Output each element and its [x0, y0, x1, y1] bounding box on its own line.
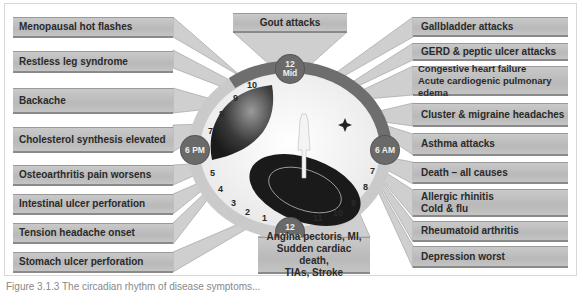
box-osteoarthritis: Osteoarthritis pain worsens [13, 165, 173, 186]
box-tension-headache: Tension headache onset [13, 223, 173, 244]
hour-8-am: 8 [363, 182, 368, 192]
hour-11-pm: 11 [263, 74, 273, 84]
figure-caption: Figure 3.1.3 The circadian rhythm of dis… [6, 281, 260, 292]
hour-5-am: 5 [369, 128, 374, 138]
hour-3-am: 3 [351, 100, 356, 110]
box-cardiovascular: Angina pectoris, MI, Sudden cardiac deat… [258, 237, 370, 274]
box-gout: Gout attacks [233, 13, 347, 33]
box-congestive-heart-failure: Congestive heart failure Acute cardiogen… [413, 66, 568, 96]
box-allergic-rhinitis: Allergic rhinitis Cold & flu [413, 189, 568, 217]
hour-3-pm: 3 [231, 198, 236, 208]
box-cluster-migraine: Cluster & migraine headaches [413, 103, 568, 127]
badge-midnight-label: Mid [283, 68, 298, 78]
box-cardiovascular-line1: Angina pectoris, MI, [266, 231, 361, 243]
hour-4-pm: 4 [218, 184, 223, 194]
box-allergic-line2: Cold & flu [421, 203, 468, 215]
box-depression: Depression worst [413, 246, 568, 268]
badge-midnight: 12Mid [276, 55, 304, 83]
hour-2-am: 2 [337, 89, 342, 99]
box-menopausal-hot-flashes: Menopausal hot flashes [13, 17, 173, 38]
badge-6pm: 6 PM [181, 136, 209, 164]
box-chf-line1: Congestive heart failure [418, 63, 526, 75]
hour-7-pm: 7 [208, 126, 213, 136]
hour-10-pm: 10 [247, 80, 257, 90]
box-backache: Backache [13, 88, 173, 114]
box-stomach-ulcer: Stomach ulcer perforation [13, 252, 173, 273]
hour-8-pm: 8 [219, 109, 224, 119]
box-cholesterol: Cholesterol synthesis elevated [13, 127, 173, 153]
hour-4-am: 4 [361, 113, 366, 123]
box-cardiovascular-line3: TIAs, Stroke [285, 267, 343, 279]
hour-9-am: 9 [351, 198, 356, 208]
hour-7-am: 7 [370, 166, 375, 176]
box-intestinal-ulcer: Intestinal ulcer perforation [13, 194, 173, 215]
hour-10-am: 10 [333, 208, 343, 218]
hour-11-am: 11 [313, 213, 323, 223]
hour-2-pm: 2 [245, 207, 250, 217]
box-asthma: Asthma attacks [413, 133, 568, 156]
hour-9-pm: 9 [233, 93, 238, 103]
box-gerd: GERD & peptic ulcer attacks [413, 43, 568, 61]
box-death-all-causes: Death – all causes [413, 162, 568, 184]
box-restless-leg: Restless leg syndrome [13, 51, 173, 73]
hour-1-pm: 1 [262, 213, 267, 223]
hour-5-pm: 5 [210, 168, 215, 178]
box-cardiovascular-line2: Sudden cardiac death, [262, 243, 366, 267]
box-chf-line2: Acute cardiogenic pulmonary edema [418, 75, 568, 99]
box-gallbladder: Gallbladder attacks [413, 17, 568, 37]
hour-1-am: 1 [321, 80, 326, 90]
box-allergic-line1: Allergic rhinitis [421, 191, 494, 203]
box-rheumatoid-arthritis: Rheumatoid arthritis [413, 221, 568, 242]
badge-6am: 6 AM [371, 136, 399, 164]
